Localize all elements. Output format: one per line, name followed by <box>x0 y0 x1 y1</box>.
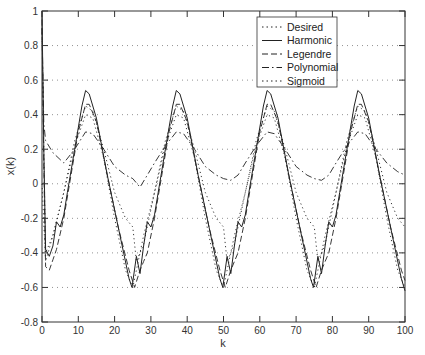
y-tick-label: 1 <box>32 6 38 17</box>
legend-label-harmonic: Harmonic <box>287 34 332 46</box>
series-harmonic <box>42 11 405 291</box>
legend-label-legendre: Legendre <box>287 48 332 60</box>
grid-lines <box>42 46 405 288</box>
x-tick-label: 100 <box>397 325 414 336</box>
y-tick-label: -0.8 <box>21 317 39 328</box>
x-tick-labels: 0102030405060708090100 <box>39 325 414 336</box>
series-polynomial <box>42 28 405 187</box>
legend: DesiredHarmonicLegendrePolynomialSigmoid <box>257 17 338 87</box>
x-tick-label: 80 <box>327 325 339 336</box>
y-tick-label: 0.2 <box>24 144 38 155</box>
series-desired <box>42 115 405 288</box>
y-tick-label: 0.4 <box>24 109 38 120</box>
x-tick-label: 20 <box>109 325 121 336</box>
legend-label-polynomial: Polynomial <box>287 61 338 73</box>
y-tick-labels: -0.8-0.6-0.4-0.200.20.40.60.81 <box>21 6 39 328</box>
legend-label-sigmoid: Sigmoid <box>287 75 325 87</box>
x-tick-label: 50 <box>218 325 230 336</box>
legend-label-desired: Desired <box>287 21 323 33</box>
y-axis-label: x(k) <box>4 157 16 175</box>
x-tick-label: 40 <box>182 325 194 336</box>
y-tick-label: -0.4 <box>21 247 39 258</box>
x-tick-label: 60 <box>254 325 266 336</box>
x-axis-label: k <box>220 337 226 349</box>
y-tick-label: -0.6 <box>21 282 39 293</box>
y-tick-label: -0.2 <box>21 213 39 224</box>
y-tick-label: 0 <box>32 178 38 189</box>
x-tick-label: 30 <box>145 325 157 336</box>
x-tick-label: 90 <box>363 325 375 336</box>
series-legendre <box>42 20 405 288</box>
x-tick-label: 10 <box>73 325 85 336</box>
plot-frame <box>42 11 405 322</box>
x-tick-label: 0 <box>39 325 45 336</box>
series-lines <box>42 11 405 291</box>
y-tick-label: 0.6 <box>24 75 38 86</box>
line-chart: 0102030405060708090100 -0.8-0.6-0.4-0.20… <box>0 0 425 355</box>
x-tick-label: 70 <box>291 325 303 336</box>
axis-ticks <box>42 11 405 322</box>
series-sigmoid <box>42 28 405 261</box>
y-tick-label: 0.8 <box>24 40 38 51</box>
